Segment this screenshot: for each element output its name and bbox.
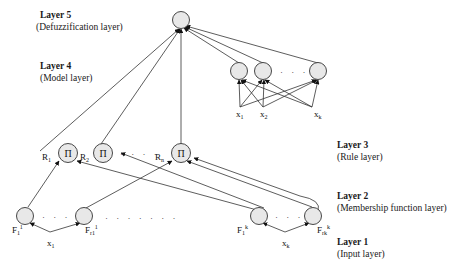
layer-2-subtitle: (Membership function layer) [337, 203, 447, 214]
rule-label-r1: R1 [42, 152, 51, 163]
layer-1-subtitle: (Input layer) [337, 249, 385, 260]
layer-4-label: Layer 4 (Model layer) [40, 61, 93, 84]
rule-label-r2: R2 [80, 152, 89, 163]
layer-2-title: Layer 2 [337, 191, 368, 201]
mf-node-f1-1 [17, 208, 34, 225]
layer-4-title: Layer 4 [40, 61, 71, 71]
rule-node-1: Π R1 [42, 144, 78, 164]
model-node-k [310, 63, 327, 80]
mf-label-f1-1: F11 [12, 224, 23, 236]
mf-node-frk-k [305, 208, 322, 225]
mf-label-frk-k: Frkk [317, 224, 330, 236]
mf-ellipsis-mid: · · · · · · · [105, 213, 178, 223]
product-symbol: Π [99, 148, 106, 159]
layer-2-label: Layer 2 (Membership function layer) [337, 191, 447, 214]
layer-3-title: Layer 3 [337, 140, 368, 150]
rule-ellipsis: · · · · [120, 149, 160, 159]
layer-4-subtitle: (Model layer) [40, 73, 93, 84]
input-x1: x1 [47, 238, 55, 249]
anfis-diagram: Layer 5 (Defuzzification layer) Layer 4 … [0, 0, 458, 271]
mf-node-fr1-1 [76, 208, 93, 225]
layer-5-subtitle: (Defuzzification layer) [36, 22, 123, 33]
edges-model-inputs [239, 80, 318, 107]
mf-node-f1-k [251, 208, 268, 225]
model-input-x1: x1 [236, 109, 244, 120]
layer-3-subtitle: (Rule layer) [337, 152, 383, 163]
product-symbol: Π [64, 148, 71, 159]
edges-to-output [40, 26, 318, 151]
input-xk: xk [282, 238, 290, 249]
model-node-2 [255, 63, 272, 80]
rule-label-rn: Rn [155, 152, 164, 163]
edges-input-to-mf [30, 223, 309, 232]
mf-label-fr1-1: Fr11 [85, 224, 98, 236]
mf-ellipsis-2: · · · [275, 212, 304, 222]
output-node [173, 12, 190, 29]
layer-5-label: Layer 5 (Defuzzification layer) [36, 10, 123, 33]
model-ellipsis: · · · [280, 67, 309, 77]
model-input-xk: xk [314, 109, 322, 120]
rule-node-2: Π R2 [80, 144, 113, 164]
layer-1-label: Layer 1 (Input layer) [337, 237, 385, 260]
model-input-x2: x2 [260, 109, 268, 120]
product-symbol: Π [177, 148, 184, 159]
model-node-1 [231, 63, 248, 80]
layer-3-label: Layer 3 (Rule layer) [337, 140, 383, 163]
layer-1-title: Layer 1 [337, 237, 368, 247]
rule-node-n: Π Rn [155, 144, 191, 164]
mf-label-f1-k: F1k [237, 224, 248, 236]
layer-5-title: Layer 5 [40, 10, 71, 20]
